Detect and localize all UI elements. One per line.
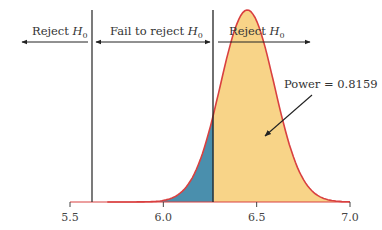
- power-chart: 5.56.06.57.0 Reject H0 Fail to reject H0…: [0, 0, 382, 230]
- x-tick-label: 6.5: [248, 211, 266, 224]
- fail-to-reject-label: Fail to reject H0: [110, 24, 203, 40]
- reject-left-label: Reject H0: [32, 24, 88, 40]
- power-annotation: Power = 0.8159: [284, 77, 378, 91]
- x-tick-label: 5.5: [61, 211, 79, 224]
- x-tick-label: 7.0: [341, 211, 359, 224]
- x-tick-label: 6.0: [155, 211, 173, 224]
- x-axis-ticks: 5.56.06.57.0: [61, 202, 359, 224]
- reject-right-label: Reject H0: [229, 24, 285, 40]
